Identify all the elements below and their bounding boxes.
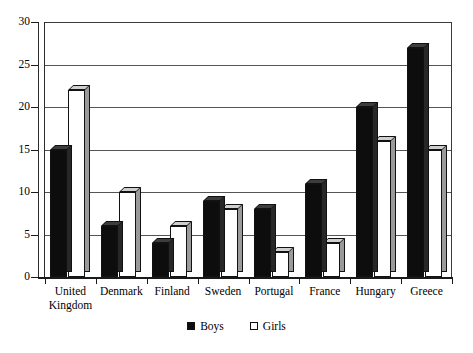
y-tick-mark <box>31 192 38 193</box>
x-tick-mark <box>401 277 402 284</box>
y-tick-mark <box>31 65 38 66</box>
legend-label: Boys <box>200 320 224 332</box>
bar-front-face <box>203 201 220 278</box>
x-axis-line <box>38 277 452 279</box>
x-tick-mark <box>452 277 453 284</box>
y-tick-label: 5 <box>24 229 30 241</box>
bar-side-face <box>220 196 225 273</box>
category-label: Hungary <box>350 285 401 299</box>
bar-side-face <box>238 204 243 272</box>
bar-boys-finland <box>152 243 169 277</box>
bar-boys-denmark <box>101 226 118 277</box>
bar-front-face <box>152 243 169 277</box>
legend-item-boys[interactable]: Boys <box>187 320 224 332</box>
y-tick-label: 30 <box>19 16 31 28</box>
y-axis-line <box>38 22 45 277</box>
x-tick-mark <box>198 277 199 284</box>
plot-area <box>45 22 452 277</box>
bar-side-face <box>136 187 141 272</box>
legend-item-girls[interactable]: Girls <box>250 320 286 332</box>
bar-side-face <box>424 43 429 273</box>
y-tick-label: 25 <box>19 59 31 71</box>
category-label: Finland <box>147 285 198 299</box>
bar-boys-france <box>305 184 322 278</box>
y-tick-mark <box>31 22 38 23</box>
category-label-line: Denmark <box>96 285 147 299</box>
category-label-line: Hungary <box>350 285 401 299</box>
category-label: Greece <box>401 285 452 299</box>
y-tick-mark <box>31 277 38 278</box>
x-tick-mark <box>350 277 351 284</box>
legend-swatch-icon <box>250 322 258 330</box>
legend-label: Girls <box>263 320 286 332</box>
x-tick-mark <box>299 277 300 284</box>
bar-side-face <box>187 221 192 272</box>
category-label-line: Kingdom <box>45 299 96 313</box>
category-label-line: Sweden <box>198 285 249 299</box>
gridline <box>45 107 452 108</box>
bar-front-face <box>356 107 373 277</box>
gridline <box>45 65 452 66</box>
bar-front-face <box>305 184 322 278</box>
bar-boys-united-kingdom <box>50 150 67 278</box>
category-label-line: United <box>45 285 96 299</box>
x-tick-mark <box>96 277 97 284</box>
x-tick-mark <box>147 277 148 284</box>
bar-front-face <box>101 226 118 277</box>
bar-boys-hungary <box>356 107 373 277</box>
bar-side-face <box>442 145 447 273</box>
category-label: Portugal <box>249 285 300 299</box>
bar-side-face <box>85 85 90 272</box>
category-label-line: Greece <box>401 285 452 299</box>
y-tick-mark <box>31 107 38 108</box>
bar-side-face <box>391 136 396 272</box>
bar-front-face <box>407 48 424 278</box>
category-label: UnitedKingdom <box>45 285 96 312</box>
bar-side-face <box>271 204 276 272</box>
chart-legend: BoysGirls <box>0 320 473 332</box>
x-tick-mark <box>249 277 250 284</box>
y-tick-label: 20 <box>19 101 31 113</box>
category-label: France <box>299 285 350 299</box>
bar-side-face <box>340 238 345 272</box>
y-tick-mark <box>31 150 38 151</box>
bar-side-face <box>373 102 378 272</box>
category-label: Denmark <box>96 285 147 299</box>
bar-boys-greece <box>407 48 424 278</box>
category-label-line: Finland <box>147 285 198 299</box>
category-label: Sweden <box>198 285 249 299</box>
bar-front-face <box>50 150 67 278</box>
category-label-line: Portugal <box>249 285 300 299</box>
bar-side-face <box>169 238 174 272</box>
bar-boys-portugal <box>254 209 271 277</box>
category-label-line: France <box>299 285 350 299</box>
bar-boys-sweden <box>203 201 220 278</box>
y-tick-label: 0 <box>24 271 30 283</box>
y-tick-mark <box>31 235 38 236</box>
y-tick-label: 15 <box>19 144 31 156</box>
bar-front-face <box>254 209 271 277</box>
y-tick-label: 10 <box>19 186 31 198</box>
bar-side-face <box>118 221 123 272</box>
bar-side-face <box>322 179 327 273</box>
x-tick-mark <box>45 277 46 284</box>
grouped-bar-chart: 051015202530 UnitedKingdomDenmarkFinland… <box>0 0 473 353</box>
legend-swatch-icon <box>187 322 195 330</box>
bar-side-face <box>67 145 72 273</box>
